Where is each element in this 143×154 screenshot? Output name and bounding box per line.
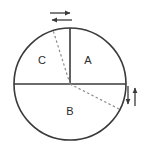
diagram-canvas: A B C <box>0 0 143 154</box>
dashed-radius-lower-right <box>70 84 119 109</box>
sector-circle-diagram: A B C <box>0 0 143 154</box>
right-rotation-arrow-group <box>128 86 135 106</box>
dashed-radius-upper-left <box>53 30 70 84</box>
top-rotation-arrow-group <box>50 13 72 20</box>
sector-label-c: C <box>38 54 46 66</box>
sector-label-b: B <box>66 105 73 117</box>
sector-label-a: A <box>84 54 92 66</box>
